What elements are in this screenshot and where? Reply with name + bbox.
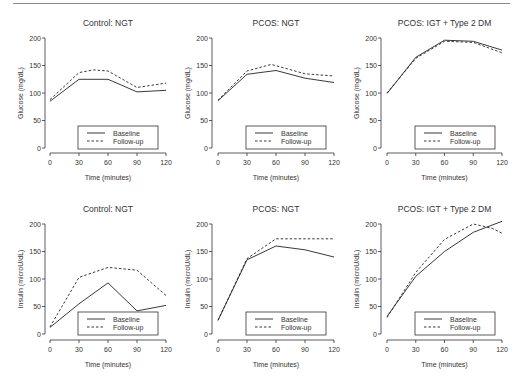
chart-title: PCOS: IGT + Type 2 DM (398, 204, 491, 214)
y-tick-label: 200 (365, 35, 377, 42)
legend-followup-label: Follow-up (281, 138, 311, 146)
x-axis-label: Time (minutes) (85, 361, 131, 369)
y-tick-label: 150 (196, 248, 208, 255)
y-axis-label: Insulin (microU/dL) (353, 250, 361, 309)
y-tick-label: 150 (29, 62, 41, 69)
x-axis-label: Time (minutes) (85, 174, 131, 182)
baseline-line (50, 79, 166, 101)
x-tick-label: 120 (328, 346, 340, 353)
x-tick-label: 90 (469, 346, 477, 353)
chart-title: Control: NGT (83, 204, 133, 214)
x-tick-label: 0 (48, 346, 52, 353)
x-axis-label: Time (minutes) (421, 361, 467, 369)
y-tick-label: 50 (200, 117, 208, 124)
chart-panel-2: PCOS: NGT050100150200Glucose (mg/dL)0306… (184, 18, 340, 182)
x-axis-label: Time (minutes) (253, 174, 299, 182)
y-tick-label: 0 (37, 331, 41, 338)
x-tick-label: 120 (496, 346, 508, 353)
y-axis-label: Glucose (mg/dL) (17, 67, 25, 119)
x-axis-label: Time (minutes) (421, 174, 467, 182)
x-tick-label: 120 (160, 346, 172, 353)
x-tick-label: 90 (133, 159, 141, 166)
y-tick-label: 100 (196, 276, 208, 283)
x-tick-label: 0 (385, 159, 389, 166)
y-axis-label: Insulin (microU/dL) (184, 250, 192, 309)
x-tick-label: 90 (133, 346, 141, 353)
chart-panel-1: Control: NGT050100150200Glucose (mg/dL)0… (17, 18, 172, 182)
baseline-line (387, 40, 502, 93)
legend-baseline-label: Baseline (281, 316, 308, 323)
chart-panel-5: PCOS: NGT050100150200Insulin (microU/dL)… (184, 204, 340, 369)
legend-baseline-label: Baseline (281, 130, 308, 137)
x-tick-label: 120 (496, 159, 508, 166)
x-tick-label: 60 (104, 346, 112, 353)
legend-followup-label: Follow-up (450, 324, 480, 332)
chart-title: PCOS: IGT + Type 2 DM (398, 18, 491, 28)
legend-baseline-label: Baseline (450, 130, 477, 137)
legend-followup-label: Follow-up (450, 138, 480, 146)
legend-followup-label: Follow-up (113, 138, 143, 146)
x-tick-label: 0 (216, 159, 220, 166)
y-tick-label: 0 (37, 145, 41, 152)
y-tick-label: 200 (29, 35, 41, 42)
legend-baseline-label: Baseline (450, 316, 477, 323)
y-axis-label: Glucose (mg/dL) (353, 67, 361, 119)
x-tick-label: 30 (243, 159, 251, 166)
x-tick-label: 30 (412, 346, 420, 353)
x-tick-label: 30 (412, 159, 420, 166)
legend-followup-label: Follow-up (281, 324, 311, 332)
y-tick-label: 150 (365, 62, 377, 69)
x-tick-label: 0 (385, 346, 389, 353)
legend-baseline-label: Baseline (113, 316, 140, 323)
y-tick-label: 50 (200, 303, 208, 310)
legend-followup-label: Follow-up (113, 324, 143, 332)
x-tick-label: 30 (75, 159, 83, 166)
chart-panel-6: PCOS: IGT + Type 2 DM050100150200Insulin… (353, 204, 508, 369)
x-tick-label: 90 (469, 159, 477, 166)
chart-panel-4: Control: NGT050100150200Insulin (microU/… (17, 204, 172, 369)
y-tick-label: 200 (29, 221, 41, 228)
followup-line (387, 41, 502, 93)
y-tick-label: 200 (196, 35, 208, 42)
y-tick-label: 50 (33, 303, 41, 310)
y-tick-label: 0 (204, 145, 208, 152)
y-tick-label: 100 (365, 90, 377, 97)
y-tick-label: 200 (196, 221, 208, 228)
x-tick-label: 60 (272, 159, 280, 166)
chart-title: PCOS: NGT (253, 18, 300, 28)
x-tick-label: 60 (272, 346, 280, 353)
x-axis-label: Time (minutes) (253, 361, 299, 369)
x-tick-label: 0 (216, 346, 220, 353)
x-tick-label: 90 (301, 346, 309, 353)
figure: Control: NGT050100150200Glucose (mg/dL)0… (0, 0, 522, 386)
chart-title: PCOS: NGT (253, 204, 300, 214)
y-tick-label: 0 (373, 331, 377, 338)
y-tick-label: 100 (196, 90, 208, 97)
y-tick-label: 100 (365, 276, 377, 283)
followup-line (387, 224, 502, 318)
x-tick-label: 120 (160, 159, 172, 166)
followup-line (218, 239, 334, 320)
y-tick-label: 150 (29, 248, 41, 255)
x-tick-label: 30 (243, 346, 251, 353)
y-axis-label: Insulin (microU/dL) (17, 250, 25, 309)
y-tick-label: 150 (365, 248, 377, 255)
y-axis-label: Glucose (mg/dL) (184, 67, 192, 119)
followup-line (218, 64, 334, 100)
followup-line (50, 70, 166, 100)
chart-panel-3: PCOS: IGT + Type 2 DM050100150200Glucose… (353, 18, 508, 182)
y-tick-label: 50 (369, 303, 377, 310)
y-tick-label: 150 (196, 62, 208, 69)
legend-baseline-label: Baseline (113, 130, 140, 137)
y-tick-label: 0 (373, 145, 377, 152)
y-tick-label: 100 (29, 90, 41, 97)
y-tick-label: 200 (365, 221, 377, 228)
x-tick-label: 90 (301, 159, 309, 166)
chart-title: Control: NGT (83, 18, 133, 28)
x-tick-label: 120 (328, 159, 340, 166)
x-tick-label: 60 (441, 346, 449, 353)
y-tick-label: 0 (204, 331, 208, 338)
x-tick-label: 30 (75, 346, 83, 353)
baseline-line (387, 221, 502, 316)
y-tick-label: 50 (369, 117, 377, 124)
